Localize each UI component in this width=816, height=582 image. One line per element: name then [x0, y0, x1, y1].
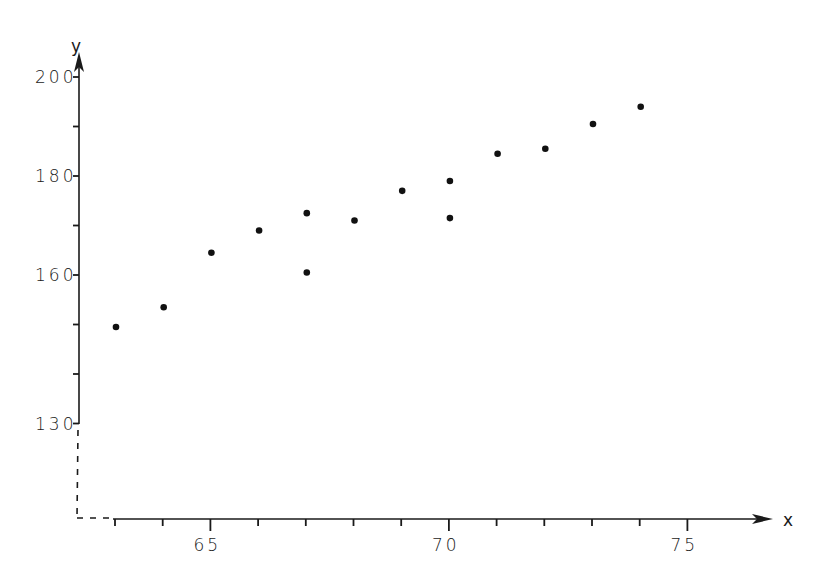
y-tick-label: 160 [35, 265, 76, 285]
data-points [113, 103, 644, 330]
data-point [113, 324, 120, 331]
data-point [542, 145, 549, 152]
data-point [304, 210, 311, 217]
y-ticks: 130160180200 [35, 67, 79, 434]
y-tick-label: 200 [35, 67, 76, 87]
data-point [399, 188, 406, 195]
data-point [351, 217, 358, 224]
x-axis-label: x [783, 510, 793, 530]
data-point [304, 269, 311, 276]
axes: x y [71, 36, 793, 530]
x-tick-label: 75 [670, 535, 698, 555]
y-axis-label: y [71, 36, 81, 56]
y-tick-label: 130 [35, 414, 76, 434]
data-point [160, 304, 167, 311]
data-point [256, 227, 263, 234]
x-tick-label: 65 [193, 535, 221, 555]
data-point [447, 178, 454, 185]
y-axis-break-dashed [77, 430, 78, 518]
scatter-chart: x y 657075 130160180200 [0, 0, 816, 582]
x-tick-label: 70 [432, 535, 460, 555]
data-point [494, 150, 501, 157]
data-point [447, 215, 454, 222]
data-point [590, 121, 597, 128]
y-tick-label: 180 [35, 166, 76, 186]
x-ticks: 657075 [115, 519, 698, 555]
data-point [637, 103, 644, 110]
data-point [208, 249, 215, 256]
